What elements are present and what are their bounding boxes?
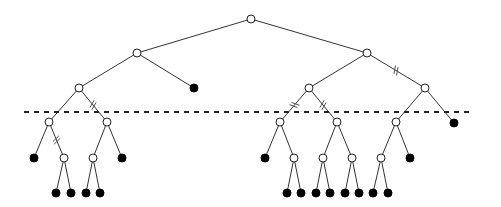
leaf-node-icon — [312, 189, 320, 197]
internal-node-icon — [319, 154, 327, 162]
tree-edge — [381, 122, 396, 158]
tree-edge — [93, 158, 100, 193]
tree-edge — [316, 158, 323, 193]
tree-edge — [280, 122, 294, 158]
leaf-node-icon — [326, 189, 334, 197]
tree-edge — [265, 122, 280, 158]
tree-edges — [34, 19, 454, 193]
leaf-node-icon — [355, 189, 363, 197]
tree-edge — [49, 88, 79, 122]
tree-edge — [86, 158, 93, 193]
internal-node-icon — [421, 84, 429, 92]
internal-node-icon — [75, 84, 83, 92]
internal-node-icon — [60, 154, 68, 162]
edge-hash-mark — [290, 105, 298, 108]
tree-edge — [396, 88, 425, 122]
tree-edge — [345, 158, 352, 193]
internal-node-icon — [89, 154, 97, 162]
internal-node-icon — [247, 15, 255, 23]
internal-node-icon — [45, 118, 53, 126]
tree-edge — [373, 158, 381, 193]
leaf-node-icon — [450, 119, 458, 127]
tree-diagram — [0, 0, 501, 207]
leaf-node-icon — [341, 189, 349, 197]
leaf-node-icon — [261, 154, 269, 162]
tree-edge — [337, 122, 352, 158]
internal-node-icon — [333, 118, 341, 126]
internal-node-icon — [348, 154, 356, 162]
internal-node-icon — [290, 154, 298, 162]
tree-edge — [287, 158, 294, 193]
internal-node-icon — [392, 118, 400, 126]
leaf-node-icon — [297, 189, 305, 197]
leaf-node-icon — [30, 154, 38, 162]
tree-edge — [93, 122, 107, 158]
tree-edge — [34, 122, 49, 158]
internal-node-icon — [377, 154, 385, 162]
tree-edge — [309, 88, 337, 122]
tree-edge — [352, 158, 359, 193]
tree-edge — [396, 122, 410, 158]
internal-node-icon — [133, 49, 141, 57]
leaf-node-icon — [67, 189, 75, 197]
leaf-node-icon — [369, 189, 377, 197]
tree-edge — [309, 53, 367, 88]
leaf-node-icon — [118, 154, 126, 162]
tree-edge — [137, 19, 251, 53]
tree-edge — [323, 122, 337, 158]
leaf-node-icon — [190, 84, 198, 92]
tree-edge — [56, 158, 64, 193]
tree-edge — [79, 53, 137, 88]
leaf-node-icon — [384, 189, 392, 197]
leaf-node-icon — [406, 154, 414, 162]
tree-edge — [49, 122, 64, 158]
tree-edge — [367, 53, 425, 88]
internal-node-icon — [276, 118, 284, 126]
leaf-node-icon — [52, 189, 60, 197]
tree-edge — [64, 158, 71, 193]
leaf-node-icon — [82, 189, 90, 197]
tree-edge — [381, 158, 388, 193]
internal-node-icon — [103, 118, 111, 126]
tree-edge — [107, 122, 122, 158]
tree-edge — [251, 19, 367, 53]
leaf-node-icon — [96, 189, 104, 197]
tree-edge — [425, 88, 454, 123]
tree-edge — [79, 88, 107, 122]
tree-edge — [280, 88, 309, 122]
tree-edge — [294, 158, 301, 193]
edge-hash-mark — [291, 102, 299, 105]
internal-node-icon — [305, 84, 313, 92]
tree-edge — [323, 158, 330, 193]
tree-edge — [137, 53, 194, 88]
leaf-node-icon — [283, 189, 291, 197]
internal-node-icon — [363, 49, 371, 57]
